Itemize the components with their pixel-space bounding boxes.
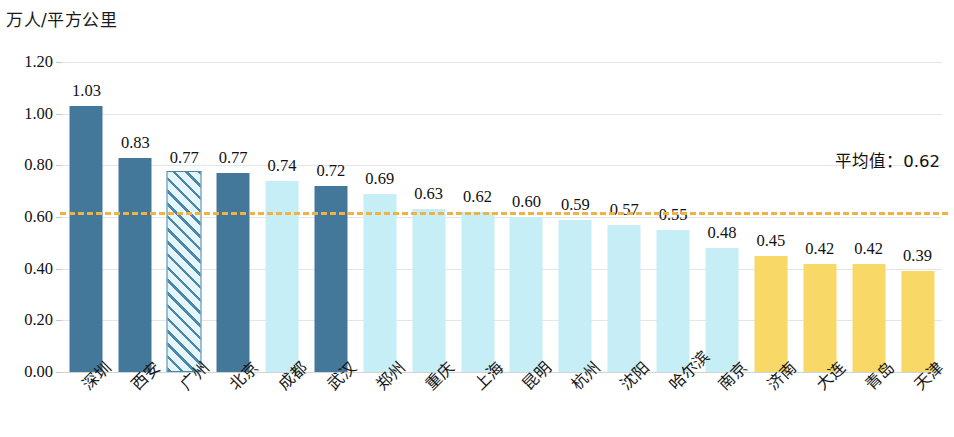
bar-value-label: 0.42: [805, 239, 834, 259]
bar-slot: 0.63: [404, 62, 453, 372]
bar-value-label: 0.77: [170, 148, 199, 168]
y-axis-tick-label: 1.20: [24, 52, 53, 72]
y-axis-tick-label: 0.20: [24, 310, 53, 330]
bar-value-label: 0.45: [756, 231, 785, 251]
bar-slot: 0.60: [502, 62, 551, 372]
bar[interactable]: [461, 212, 494, 372]
bar-slot: 0.77: [209, 62, 258, 372]
bar-value-label: 0.48: [708, 223, 737, 243]
y-axis-tick-label: 0.40: [24, 258, 53, 278]
bar-slot: 0.55: [649, 62, 698, 372]
bar[interactable]: [754, 256, 787, 372]
y-axis-tick-label: 0.00: [24, 362, 53, 382]
y-axis-tick-mark: [56, 372, 62, 373]
bar-value-label: 0.74: [268, 156, 297, 176]
bar[interactable]: [363, 194, 396, 372]
bar[interactable]: [167, 171, 202, 372]
bar[interactable]: [705, 248, 738, 372]
bar-slot: 0.45: [746, 62, 795, 372]
bar[interactable]: [217, 173, 250, 372]
bar-slot: 0.83: [111, 62, 160, 372]
bar-slot: 1.03: [62, 62, 111, 372]
average-line: [60, 212, 948, 215]
bar-slot: 0.77: [160, 62, 209, 372]
y-axis-tick-label: 1.00: [24, 103, 53, 123]
bar-value-label: 0.60: [512, 192, 541, 212]
bar-series: 1.030.830.770.770.740.720.690.630.620.60…: [62, 62, 942, 372]
plot-area: 1.201.000.800.600.400.200.00 1.030.830.7…: [62, 62, 942, 372]
bar-slot: 0.42: [795, 62, 844, 372]
bar[interactable]: [559, 220, 592, 372]
bar-slot: 0.57: [600, 62, 649, 372]
y-axis-tick-label: 0.60: [24, 207, 53, 227]
bar-value-label: 0.57: [610, 200, 639, 220]
bar-slot: 0.42: [844, 62, 893, 372]
bar[interactable]: [608, 225, 641, 372]
bar-value-label: 1.03: [72, 81, 101, 101]
bar-value-label: 0.63: [414, 184, 443, 204]
bar-value-label: 0.83: [121, 133, 150, 153]
bar-slot: 0.72: [306, 62, 355, 372]
average-annotation-label: 平均值：0.62: [835, 148, 940, 172]
y-axis-unit-label: 万人/平方公里: [6, 6, 117, 31]
bar-value-label: 0.72: [316, 161, 345, 181]
bar[interactable]: [70, 106, 103, 372]
bar-value-label: 0.55: [659, 205, 688, 225]
bar-slot: 0.59: [551, 62, 600, 372]
bar-value-label: 0.39: [903, 246, 932, 266]
bar-value-label: 0.77: [219, 148, 248, 168]
bar-value-label: 0.42: [854, 239, 883, 259]
bar-slot: 0.69: [355, 62, 404, 372]
population-density-bar-chart: 万人/平方公里 1.201.000.800.600.400.200.00 1.0…: [0, 0, 954, 437]
bar[interactable]: [265, 181, 298, 372]
y-axis-tick-label: 0.80: [24, 155, 53, 175]
x-axis-category-labels: 深圳西安广州北京成都武汉郑州重庆上海昆明杭州沈阳哈尔滨南京济南大连青岛天津: [62, 374, 942, 436]
bar[interactable]: [510, 217, 543, 372]
bar-slot: 0.62: [453, 62, 502, 372]
bar[interactable]: [657, 230, 690, 372]
bar[interactable]: [119, 158, 152, 372]
bar-slot: 0.48: [698, 62, 747, 372]
bar-slot: 0.74: [258, 62, 307, 372]
bar-slot: 0.39: [893, 62, 942, 372]
bar[interactable]: [412, 209, 445, 372]
bar-value-label: 0.69: [365, 169, 394, 189]
bar-value-label: 0.62: [463, 187, 492, 207]
